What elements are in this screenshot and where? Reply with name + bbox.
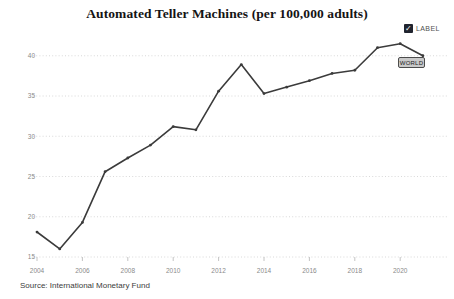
y-axis-tick-label: 40 [28, 52, 36, 59]
x-axis-tick-label: 2004 [30, 267, 45, 274]
x-axis-tick-label: 2016 [302, 267, 317, 274]
x-axis-tick-label: 2014 [257, 267, 272, 274]
data-point-2004[interactable] [36, 231, 39, 234]
y-axis-tick-label: 25 [28, 173, 36, 180]
data-point-2016[interactable] [308, 79, 311, 82]
data-point-2011[interactable] [195, 128, 198, 131]
data-point-2013[interactable] [240, 63, 243, 66]
x-axis-tick-label: 2012 [211, 267, 226, 274]
x-axis-tick-label: 2010 [166, 267, 181, 274]
chart-window: Automated Teller Machines (per 100,000 a… [0, 0, 454, 299]
y-axis-tick-label: 30 [28, 133, 36, 140]
x-axis-tick-label: 2008 [121, 267, 136, 274]
x-axis-tick-label: 2006 [75, 267, 90, 274]
data-point-2019[interactable] [376, 46, 379, 49]
world-series-line[interactable] [37, 44, 423, 249]
data-point-2010[interactable] [172, 125, 175, 128]
data-point-2006[interactable] [81, 221, 84, 224]
data-point-2014[interactable] [263, 92, 266, 95]
series-label-world[interactable]: WORLD [398, 57, 425, 68]
x-axis-tick-label: 2018 [348, 267, 363, 274]
data-point-2008[interactable] [126, 157, 129, 160]
data-point-2009[interactable] [149, 144, 152, 147]
x-axis-tick-label: 2020 [393, 267, 408, 274]
y-axis-tick-label: 20 [28, 213, 36, 220]
data-point-2005[interactable] [58, 248, 61, 251]
source-note: Source: International Monetary Fund [20, 281, 150, 290]
y-axis-tick-label: 35 [28, 92, 36, 99]
line-chart-canvas: 1520253035402004200620082010201220142016… [0, 0, 454, 299]
data-point-2020[interactable] [399, 42, 402, 45]
data-point-2012[interactable] [217, 90, 220, 93]
data-point-2015[interactable] [285, 86, 288, 89]
data-point-2017[interactable] [331, 72, 334, 75]
data-point-2007[interactable] [104, 170, 107, 173]
data-point-2018[interactable] [353, 69, 356, 72]
y-axis-tick-label: 15 [28, 253, 36, 260]
